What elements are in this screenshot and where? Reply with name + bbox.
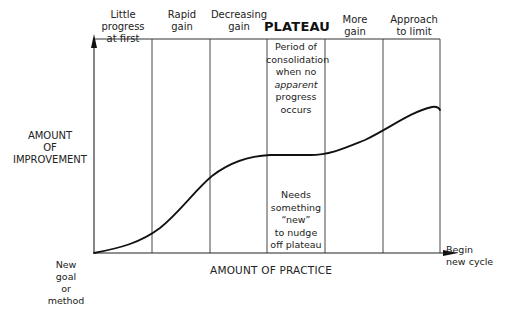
phase-label-decreasing-gain: Decreasing gain	[208, 9, 270, 33]
start-label: New goal or method	[44, 259, 88, 307]
phase-label-more-gain: More gain	[330, 14, 380, 38]
phase-label-plateau: PLATEAU	[262, 19, 332, 34]
phase-label-rapid-gain: Rapid gain	[155, 9, 209, 33]
plateau-note-consolidation: Period of consolidation when no apparent…	[266, 41, 326, 116]
phase-label-approach-to-limit: Approach to limit	[386, 14, 442, 38]
end-label: Begin new cycle	[446, 244, 493, 268]
y-axis-label: AMOUNT OF IMPROVEMENT	[2, 130, 98, 166]
plateau-note-needs-new: Needs something “new” to nudge off plate…	[266, 189, 326, 252]
phase-label-little-progress: Little progress at first	[90, 9, 156, 45]
learning-curve-diagram: Little progress at first Rapid gain Decr…	[0, 0, 505, 320]
x-axis-label: AMOUNT OF PRACTICE	[210, 264, 332, 276]
